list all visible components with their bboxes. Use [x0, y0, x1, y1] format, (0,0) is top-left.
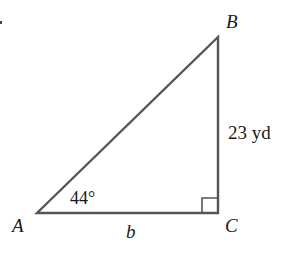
angle-a-measure-label: 44° — [70, 189, 95, 207]
vertex-a-label: A — [12, 216, 24, 235]
side-bc-length-label: 23 yd — [228, 123, 271, 142]
right-angle-marker — [202, 198, 218, 213]
side-ac-variable-label: b — [126, 222, 136, 241]
vertex-b-label: B — [226, 12, 238, 31]
triangle-abc — [37, 37, 218, 213]
vertex-c-label: C — [225, 216, 238, 235]
